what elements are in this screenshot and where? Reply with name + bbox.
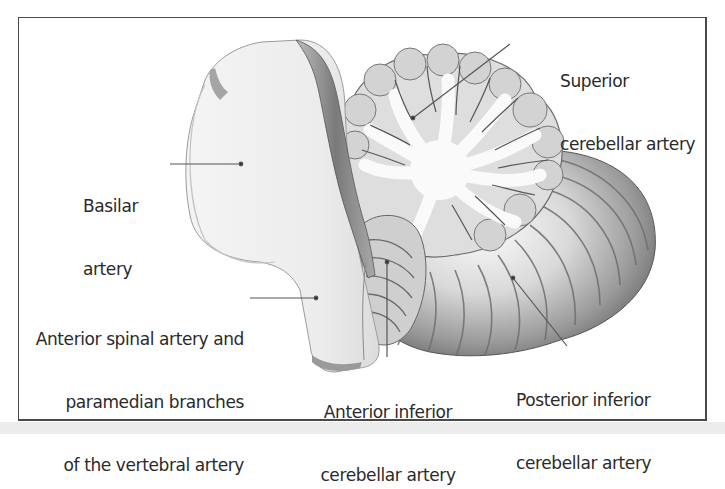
- label-line: of the vertebral artery: [28, 455, 244, 476]
- label-line: Anterior spinal artery and: [28, 329, 244, 350]
- label-line: cerebellar artery: [560, 134, 695, 155]
- pointer-dot-basilar: [239, 162, 243, 166]
- label-superior-cerebellar-artery: Superior cerebellar artery: [560, 29, 695, 176]
- label-anterior-inferior-cerebellar-artery: Anterior inferior cerebellar artery: [310, 360, 466, 489]
- pointer-dot-superior: [411, 116, 415, 120]
- pointer-dot-aica: [385, 260, 389, 264]
- label-anterior-spinal-artery: Anterior spinal artery and paramedian br…: [28, 287, 244, 489]
- label-line: Posterior inferior: [516, 390, 651, 411]
- label-line: Basilar: [83, 196, 138, 217]
- label-line: Superior: [560, 71, 695, 92]
- label-line: cerebellar artery: [516, 453, 651, 474]
- label-posterior-inferior-cerebellar-artery: Posterior inferior cerebellar artery: [516, 348, 651, 489]
- pointer-dot-pica: [511, 276, 515, 280]
- label-line: cerebellar artery: [310, 465, 466, 486]
- pointer-dot-anterior-spinal: [314, 296, 318, 300]
- label-basilar-artery: Basilar artery: [83, 154, 138, 301]
- label-line: paramedian branches: [28, 392, 244, 413]
- label-line: artery: [83, 259, 138, 280]
- label-line: Anterior inferior: [310, 402, 466, 423]
